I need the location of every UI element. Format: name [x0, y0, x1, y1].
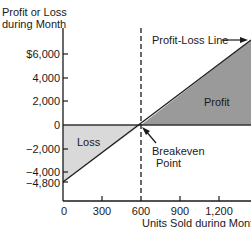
y-tick-label: 4,000: [32, 72, 60, 84]
y-axis-label-line1: Profit or Loss: [2, 6, 67, 18]
x-tick-label: 600: [132, 205, 150, 217]
breakeven-label-line1: Breakeven: [152, 145, 205, 157]
x-ticks: [102, 196, 219, 201]
x-tick-label: 900: [171, 205, 189, 217]
y-tick-label: 2,000: [32, 95, 60, 107]
y-tick-label: −2,000: [26, 143, 60, 155]
x-tick-label: 1,200: [205, 205, 233, 217]
x-axis-label: Units Sold during Month: [142, 217, 251, 227]
arrowhead-icon: [240, 37, 248, 43]
loss-region-label: Loss: [77, 136, 100, 148]
x-tick-label: 300: [93, 205, 111, 217]
x-tick-label: 0: [61, 205, 67, 217]
profit-region-label: Profit: [204, 96, 230, 108]
y-tick-label: −4,800: [26, 177, 60, 189]
y-axis-label-line2: during Month: [2, 18, 66, 30]
y-tick-label: 0: [54, 119, 60, 131]
y-tick-label: $6,000: [26, 48, 60, 60]
breakeven-label-line2: Point: [156, 157, 181, 169]
profit-loss-line-label: Profit-Loss Line: [152, 34, 228, 46]
